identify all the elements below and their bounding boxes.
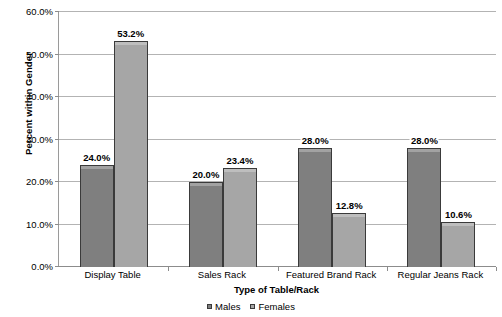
legend-swatch-females xyxy=(250,304,255,309)
bar-value-label: 10.6% xyxy=(444,209,473,220)
plot-area: 0.0%10.0%20.0%30.0%40.0%50.0%60.0% 24.0%… xyxy=(58,12,495,267)
y-axis-tick-label: 60.0% xyxy=(26,6,53,17)
bar-value-label: 28.0% xyxy=(410,135,439,146)
bar-females[interactable]: 12.8% xyxy=(332,213,366,267)
bar-top-highlight xyxy=(190,183,222,186)
bar-top-highlight xyxy=(81,166,113,169)
bar-males[interactable]: 20.0% xyxy=(189,182,223,267)
bar-groups: 24.0%53.2%20.0%23.4%28.0%12.8%28.0%10.6% xyxy=(59,12,496,267)
legend-label: Males xyxy=(215,301,240,312)
legend-label: Females xyxy=(258,301,294,312)
bar-males[interactable]: 24.0% xyxy=(80,165,114,267)
bar-value-label: 12.8% xyxy=(335,200,364,211)
bar-group: 28.0%12.8% xyxy=(298,12,366,267)
y-axis-tick-label: 20.0% xyxy=(26,176,53,187)
chart-legend: MalesFemales xyxy=(0,301,502,312)
legend-swatch-males xyxy=(207,304,212,309)
bar-chart: Percent within Gender 0.0%10.0%20.0%30.0… xyxy=(0,0,502,317)
bar-group: 24.0%53.2% xyxy=(80,12,148,267)
chart-title-clipped xyxy=(0,0,502,3)
legend-item[interactable]: Females xyxy=(250,301,294,312)
bar-top-highlight xyxy=(408,149,440,152)
x-axis-category-label: Regular Jeans Rack xyxy=(398,269,484,280)
bar-top-highlight xyxy=(224,169,256,172)
bar-group: 28.0%10.6% xyxy=(407,12,475,267)
bar-males[interactable]: 28.0% xyxy=(407,148,441,267)
bar-group: 20.0%23.4% xyxy=(189,12,257,267)
bar-females[interactable]: 10.6% xyxy=(441,222,475,267)
x-axis-category-label: Display Table xyxy=(84,269,140,280)
bar-top-highlight xyxy=(442,223,474,226)
y-axis-tick-label: 40.0% xyxy=(26,91,53,102)
x-axis-title: Type of Table/Rack xyxy=(58,284,495,295)
bar-value-label: 20.0% xyxy=(191,169,220,180)
x-axis-category-label: Featured Brand Rack xyxy=(286,269,376,280)
legend-item[interactable]: Males xyxy=(207,301,240,312)
bar-top-highlight xyxy=(115,42,147,45)
bar-value-label: 28.0% xyxy=(301,135,330,146)
x-axis-category-labels: Display TableSales RackFeatured Brand Ra… xyxy=(58,269,495,285)
y-axis-tick-label: 30.0% xyxy=(26,133,53,144)
bar-top-highlight xyxy=(333,214,365,217)
bar-males[interactable]: 28.0% xyxy=(298,148,332,267)
bar-females[interactable]: 23.4% xyxy=(223,168,257,267)
bar-value-label: 23.4% xyxy=(225,155,254,166)
bar-value-label: 53.2% xyxy=(116,28,145,39)
y-axis-tick-label: 0.0% xyxy=(31,261,53,272)
bar-females[interactable]: 53.2% xyxy=(114,41,148,267)
x-axis-tick-mark xyxy=(496,267,497,271)
x-axis-category-label: Sales Rack xyxy=(198,269,246,280)
bar-top-highlight xyxy=(299,149,331,152)
y-axis-tick-label: 50.0% xyxy=(26,48,53,59)
bar-value-label: 24.0% xyxy=(82,152,111,163)
y-axis-tick-label: 10.0% xyxy=(26,218,53,229)
